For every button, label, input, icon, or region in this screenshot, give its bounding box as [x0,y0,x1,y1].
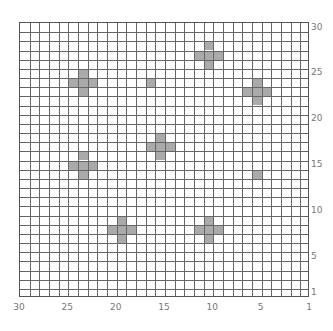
x-axis-label: 15 [158,302,169,312]
grid-line-vertical [49,23,50,296]
y-axis-label: 20 [311,113,322,123]
grid-line-horizontal [20,96,308,97]
grid-line-horizontal [20,225,308,226]
shaded-cell [155,133,165,142]
grid-line-vertical [146,23,147,296]
shaded-cell [204,225,214,234]
grid-line-vertical [242,23,243,296]
grid-line-vertical [39,23,40,296]
y-axis-label: 25 [311,67,322,77]
grid-line-horizontal [20,179,308,180]
grid-line-horizontal [20,161,308,162]
grid-line-vertical [223,23,224,296]
shaded-cell [126,225,136,234]
grid-line-vertical [204,23,205,296]
grid-line-horizontal [20,170,308,171]
grid-line-vertical [271,23,272,296]
grid-line-horizontal [20,234,308,235]
grid-line-vertical [300,23,301,296]
x-axis-label: 20 [110,302,121,312]
shaded-cell [213,225,223,234]
grid-line-horizontal [20,243,308,244]
grid-line-vertical [30,23,31,296]
grid-line-horizontal [20,51,308,52]
shaded-cell [78,87,88,96]
shaded-cell [194,225,204,234]
shaded-cell [204,41,214,50]
grid-line-vertical [281,23,282,296]
grid-line-vertical [252,23,253,296]
grid-line-vertical [262,23,263,296]
shaded-cell [78,170,88,179]
shaded-cell [78,161,88,170]
grid-line-horizontal [20,124,308,125]
shaded-cell [155,151,165,160]
grid-line-horizontal [20,41,308,42]
shaded-cell [165,142,175,151]
shaded-cell [78,69,88,78]
grid-line-horizontal [20,151,308,152]
grid-line-horizontal [20,252,308,253]
grid-line-vertical [117,23,118,296]
shaded-cell [204,234,214,243]
x-axis-label: 30 [13,302,24,312]
grid-line-horizontal [20,216,308,217]
shaded-cell [252,170,262,179]
shaded-cell [204,60,214,69]
y-axis-label: 30 [311,22,322,32]
grid-line-horizontal [20,261,308,262]
shaded-cell [155,142,165,151]
x-axis-label: 1 [306,302,312,312]
grid-line-horizontal [20,106,308,107]
shaded-cell [68,161,78,170]
grid-line-horizontal [20,133,308,134]
shaded-cell [146,78,156,87]
grid-line-vertical [68,23,69,296]
shaded-cell [146,142,156,151]
y-axis-label: 1 [311,287,317,297]
x-axis-label: 25 [62,302,73,312]
shaded-cell [78,151,88,160]
shaded-cell [78,78,88,87]
grid-line-horizontal [20,87,308,88]
grid-line-horizontal [20,280,308,281]
grid-line-horizontal [20,289,308,290]
shaded-cell [204,51,214,60]
grid-line-vertical [291,23,292,296]
shaded-cell [204,216,214,225]
shaded-cell [194,51,204,60]
shaded-cell [252,78,262,87]
shaded-cell [107,225,117,234]
grid-line-horizontal [20,206,308,207]
grid-line-horizontal [20,78,308,79]
grid-line-horizontal [20,69,308,70]
shaded-cell [88,78,98,87]
grid-line-vertical [78,23,79,296]
grid-line-vertical [107,23,108,296]
grid-line-vertical [175,23,176,296]
y-axis-label: 15 [311,159,322,169]
grid-line-vertical [97,23,98,296]
grid-line-vertical [233,23,234,296]
shaded-cell [117,225,127,234]
x-axis-label: 5 [258,302,264,312]
grid-line-horizontal [20,271,308,272]
x-axis-label: 10 [207,302,218,312]
grid-line-vertical [59,23,60,296]
grid-line-vertical [136,23,137,296]
grid-line-vertical [184,23,185,296]
shaded-cell [117,234,127,243]
pixel-grid [19,22,309,297]
grid-line-horizontal [20,142,308,143]
grid-line-vertical [194,23,195,296]
grid-line-horizontal [20,197,308,198]
shaded-cell [252,96,262,105]
y-axis-label: 10 [311,205,322,215]
shaded-cell [117,216,127,225]
grid-line-horizontal [20,60,308,61]
grid-line-vertical [165,23,166,296]
shaded-cell [262,87,272,96]
shaded-cell [242,87,252,96]
shaded-cell [68,78,78,87]
grid-line-horizontal [20,188,308,189]
